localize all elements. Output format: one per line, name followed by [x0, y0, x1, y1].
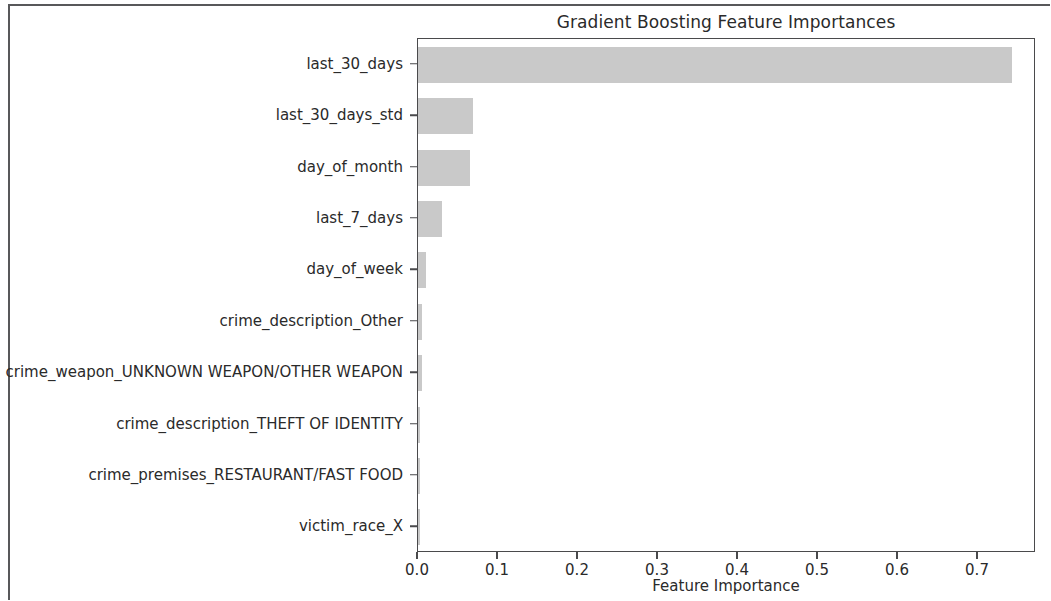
- x-tick-mark: [416, 552, 418, 559]
- y-tick-label: last_7_days: [316, 209, 403, 227]
- y-tick-mark: [410, 114, 417, 116]
- bar: [418, 304, 422, 340]
- y-tick-label: last_30_days_std: [276, 106, 403, 124]
- bar: [418, 150, 470, 186]
- bar: [418, 47, 1012, 83]
- y-tick-label: day_of_month: [297, 158, 403, 176]
- x-axis-title: Feature Importance: [417, 577, 1035, 595]
- y-tick-mark: [410, 217, 417, 219]
- bar: [418, 355, 422, 391]
- y-axis: last_30_dayslast_30_days_stdday_of_month…: [0, 38, 417, 552]
- bars-layer: [418, 39, 1034, 551]
- y-tick-mark: [410, 320, 417, 322]
- x-tick-mark: [976, 552, 978, 559]
- y-tick-label: last_30_days: [306, 55, 403, 73]
- chart-title: Gradient Boosting Feature Importances: [417, 12, 1035, 32]
- y-tick-label: victim_race_X: [299, 517, 403, 535]
- y-tick-mark: [410, 474, 417, 476]
- bar: [418, 98, 473, 134]
- bar: [418, 458, 420, 494]
- y-tick-label: crime_weapon_UNKNOWN WEAPON/OTHER WEAPON: [6, 363, 403, 381]
- bar: [418, 252, 426, 288]
- x-tick-mark: [576, 552, 578, 559]
- plot-area: [417, 38, 1035, 552]
- x-tick-mark: [896, 552, 898, 559]
- y-tick-mark: [410, 526, 417, 528]
- x-tick-mark: [656, 552, 658, 559]
- y-tick-mark: [410, 371, 417, 373]
- y-tick-label: crime_description_THEFT OF IDENTITY: [116, 415, 403, 433]
- y-tick-label: crime_premises_RESTAURANT/FAST FOOD: [88, 466, 403, 484]
- y-tick-mark: [410, 269, 417, 271]
- x-tick-mark: [496, 552, 498, 559]
- y-tick-mark: [410, 166, 417, 168]
- gradient-boosting-feature-importances-chart: Gradient Boosting Feature Importances la…: [0, 0, 1051, 601]
- bar: [418, 407, 420, 443]
- y-tick-mark: [410, 423, 417, 425]
- y-tick-label: crime_description_Other: [220, 312, 403, 330]
- y-tick-label: day_of_week: [307, 260, 403, 278]
- y-tick-mark: [410, 63, 417, 65]
- bar: [418, 509, 420, 545]
- x-tick-mark: [816, 552, 818, 559]
- bar: [418, 201, 442, 237]
- x-tick-mark: [736, 552, 738, 559]
